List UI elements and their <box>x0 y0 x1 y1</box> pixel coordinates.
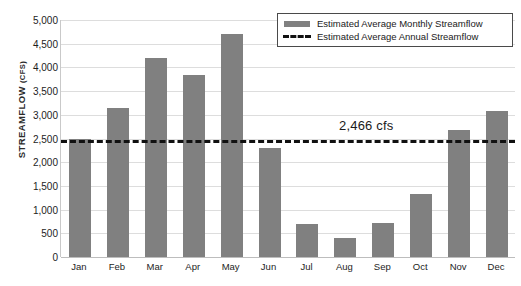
y-axis-tick-labels: 05001,0001,5002,0002,5003,0003,5004,0004… <box>0 0 58 286</box>
y-axis-tick-label: 1,500 <box>4 180 58 191</box>
bar-may <box>221 34 243 257</box>
chart-legend: Estimated Average Monthly Streamflow Est… <box>277 13 513 47</box>
bars-layer <box>61 20 515 257</box>
plot-area: 2,466 cfs <box>60 20 515 257</box>
bar-jul <box>296 224 318 257</box>
y-axis-tick-label: 500 <box>4 228 58 239</box>
legend-item-annual: Estimated Average Annual Streamflow <box>282 30 508 43</box>
bar-nov <box>448 130 470 257</box>
bar-apr <box>183 75 205 257</box>
x-axis-tick-label-oct: Oct <box>400 261 440 272</box>
bar-dec <box>486 111 508 257</box>
x-axis-tick-label-dec: Dec <box>476 261 516 272</box>
bar-aug <box>334 238 356 257</box>
x-axis-tick-label-nov: Nov <box>438 261 478 272</box>
bar-feb <box>107 108 129 257</box>
y-axis-tick-label: 4,500 <box>4 38 58 49</box>
gridline <box>61 257 515 258</box>
y-axis-tick-label: 5,000 <box>4 15 58 26</box>
y-axis-tick-label: 1,000 <box>4 204 58 215</box>
legend-label-monthly: Estimated Average Monthly Streamflow <box>317 18 483 29</box>
x-axis-tick-label-mar: Mar <box>135 261 175 272</box>
y-axis-tick-label: 4,000 <box>4 62 58 73</box>
x-axis-tick-label-jun: Jun <box>249 261 289 272</box>
y-axis-tick-label: 3,000 <box>4 109 58 120</box>
x-axis-tick-label-aug: Aug <box>324 261 364 272</box>
bar-jun <box>259 148 281 257</box>
bar-oct <box>410 194 432 257</box>
dashed-line-icon <box>282 35 312 38</box>
x-axis-tick-labels: JanFebMarAprMayJunJulAugSepOctNovDec <box>60 261 515 283</box>
x-axis-tick-label-sep: Sep <box>362 261 402 272</box>
x-axis-tick-label-jan: Jan <box>59 261 99 272</box>
streamflow-bar-chart: STREAMFLOW (CFS) 05001,0001,5002,0002,50… <box>0 0 521 286</box>
bar-mar <box>145 58 167 257</box>
legend-label-annual: Estimated Average Annual Streamflow <box>317 31 478 42</box>
bar-sep <box>372 223 394 257</box>
x-axis-tick-label-apr: Apr <box>173 261 213 272</box>
y-axis-tick-label: 3,500 <box>4 86 58 97</box>
x-axis-tick-label-may: May <box>211 261 251 272</box>
x-axis-tick-label-jul: Jul <box>286 261 326 272</box>
y-axis-tick-label: 0 <box>4 252 58 263</box>
y-axis-tick-label: 2,000 <box>4 157 58 168</box>
average-annual-streamflow-label: 2,466 cfs <box>339 118 394 133</box>
average-annual-streamflow-line <box>61 140 515 143</box>
bar-jan <box>69 139 91 258</box>
bar-swatch-icon <box>282 21 312 27</box>
y-axis-tick-label: 2,500 <box>4 133 58 144</box>
legend-item-monthly: Estimated Average Monthly Streamflow <box>282 17 508 30</box>
x-axis-tick-label-feb: Feb <box>97 261 137 272</box>
